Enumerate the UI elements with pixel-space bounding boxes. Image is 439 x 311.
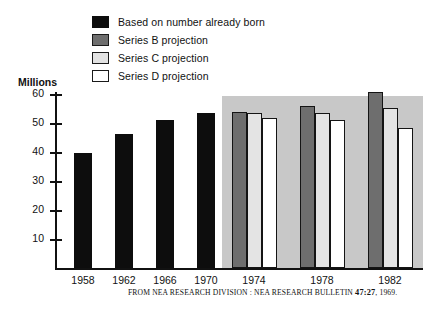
y-tick-label-60: 60 bbox=[32, 87, 44, 99]
legend-item-series-b: Series B projection bbox=[92, 32, 265, 48]
y-tick-20: 20 bbox=[50, 210, 62, 212]
bar-1978-series-d bbox=[330, 120, 345, 268]
legend-label-series-c: Series C projection bbox=[118, 52, 209, 64]
bar-1978-series-b bbox=[300, 106, 315, 268]
legend-item-series-c: Series C projection bbox=[92, 50, 265, 66]
plot-area: 60 50 40 30 20 10 bbox=[55, 92, 423, 270]
legend-swatch-white bbox=[92, 70, 109, 82]
y-tick-label-50: 50 bbox=[32, 116, 44, 128]
x-axis-line bbox=[55, 268, 423, 270]
bar-1982-series-b bbox=[368, 92, 383, 268]
bar-1978-series-c bbox=[315, 113, 330, 268]
legend-swatch-light-gray bbox=[92, 52, 109, 64]
source-suffix: , 1969. bbox=[375, 288, 397, 297]
y-tick-60: 60 bbox=[50, 94, 62, 96]
x-label-1978: 1978 bbox=[310, 274, 333, 286]
source-prefix: FROM NEA RESEARCH DIVISION : NEA RESEARC… bbox=[128, 288, 355, 297]
y-tick-50: 50 bbox=[50, 123, 62, 125]
y-tick-label-10: 10 bbox=[32, 232, 44, 244]
x-label-1982: 1982 bbox=[378, 274, 401, 286]
bar-1982-series-d bbox=[398, 128, 413, 268]
bar-1974-series-b bbox=[232, 112, 247, 268]
bar-1982-series-c bbox=[383, 108, 398, 268]
source-citation: FROM NEA RESEARCH DIVISION : NEA RESEARC… bbox=[128, 288, 397, 297]
x-label-1970: 1970 bbox=[194, 274, 217, 286]
legend-swatch-dark-gray bbox=[92, 34, 109, 46]
y-tick-40: 40 bbox=[50, 152, 62, 154]
y-tick-label-30: 30 bbox=[32, 174, 44, 186]
legend-item-series-d: Series D projection bbox=[92, 68, 265, 84]
legend-item-born: Based on number already born bbox=[92, 14, 265, 30]
legend-swatch-black bbox=[92, 16, 109, 28]
y-tick-label-20: 20 bbox=[32, 203, 44, 215]
legend-label-born: Based on number already born bbox=[118, 16, 265, 28]
bar-1974-series-d bbox=[262, 118, 277, 268]
bar-1958 bbox=[74, 153, 92, 268]
x-label-1966: 1966 bbox=[153, 274, 176, 286]
bar-1966 bbox=[156, 120, 174, 268]
bar-1970 bbox=[197, 113, 215, 268]
chart-legend: Based on number already born Series B pr… bbox=[92, 14, 265, 86]
y-tick-label-40: 40 bbox=[32, 145, 44, 157]
y-tick-30: 30 bbox=[50, 181, 62, 183]
y-tick-10: 10 bbox=[50, 239, 62, 241]
bar-1974-series-c bbox=[247, 113, 262, 268]
bar-1962 bbox=[115, 134, 133, 268]
source-volume-page: 47:27 bbox=[355, 288, 375, 297]
legend-label-series-d: Series D projection bbox=[118, 70, 209, 82]
population-projection-chart: Based on number already born Series B pr… bbox=[0, 0, 439, 311]
x-label-1958: 1958 bbox=[71, 274, 94, 286]
legend-label-series-b: Series B projection bbox=[118, 34, 208, 46]
x-label-1962: 1962 bbox=[112, 274, 135, 286]
x-label-1974: 1974 bbox=[242, 274, 265, 286]
